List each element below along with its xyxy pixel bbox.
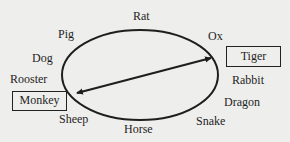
label-tiger-box: Tiger [226, 46, 281, 67]
zodiac-diagram: Rat Ox Tiger Rabbit Dragon Snake Horse S… [0, 0, 290, 142]
label-dog: Dog [32, 52, 53, 64]
monkey-tiger-arrow [77, 58, 211, 93]
zodiac-ellipse [62, 30, 218, 120]
label-sheep: Sheep [59, 113, 88, 125]
label-rat: Rat [133, 10, 150, 22]
label-dragon: Dragon [224, 96, 260, 108]
label-snake: Snake [196, 115, 225, 127]
label-horse: Horse [124, 123, 153, 135]
label-monkey-box: Monkey [12, 91, 67, 111]
label-ox: Ox [208, 30, 223, 42]
label-rabbit: Rabbit [232, 74, 264, 86]
label-pig: Pig [58, 28, 74, 40]
label-rooster: Rooster [10, 73, 47, 85]
